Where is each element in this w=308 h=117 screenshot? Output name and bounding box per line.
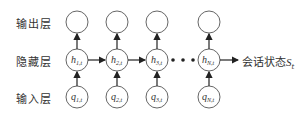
- output-node-3: [146, 11, 168, 33]
- output-node-n: [198, 11, 220, 33]
- output-node-1: [66, 11, 88, 33]
- ellipsis-dots: [171, 58, 195, 62]
- session-state-label: 会话状态St: [242, 53, 294, 71]
- output-node-2: [106, 11, 128, 33]
